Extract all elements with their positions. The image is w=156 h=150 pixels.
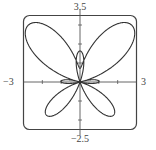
polar-plot (0, 0, 156, 150)
